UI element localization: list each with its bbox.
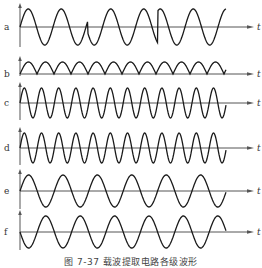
time-axis-arrow-icon: [247, 25, 254, 29]
panel-e: te: [4, 169, 261, 209]
figure-caption: 图 7-37 载波提取电路各级波形: [0, 255, 262, 268]
panel-d: td: [4, 127, 261, 165]
waveform-figure: tatbtctdtetf: [0, 0, 262, 256]
time-axis-label: t: [257, 98, 261, 108]
time-axis-arrow-icon: [247, 189, 254, 193]
y-axis-arrow-icon: [18, 3, 22, 8]
panel-label: c: [4, 98, 9, 108]
time-axis-label: t: [257, 186, 261, 196]
time-axis-label: t: [257, 143, 261, 153]
y-axis-arrow-icon: [18, 56, 22, 61]
time-axis-arrow-icon: [247, 146, 254, 150]
y-axis-arrow-icon: [18, 127, 22, 132]
time-axis-arrow-icon: [247, 230, 254, 234]
time-axis-arrow-icon: [247, 72, 254, 76]
panel-a: ta: [4, 3, 261, 47]
panel-f: tf: [4, 210, 261, 250]
panel-label: b: [4, 69, 10, 79]
panel-label: f: [4, 227, 8, 237]
waveform-b: [20, 62, 226, 74]
y-axis-arrow-icon: [18, 210, 22, 215]
panel-c: tc: [4, 82, 261, 120]
y-axis-arrow-icon: [18, 82, 22, 87]
y-axis-arrow-icon: [18, 169, 22, 174]
time-axis-label: t: [257, 227, 261, 237]
panel-b: tb: [4, 56, 261, 79]
panel-label: d: [4, 143, 10, 153]
panel-label: a: [4, 22, 10, 32]
time-axis-label: t: [257, 22, 261, 32]
time-axis-arrow-icon: [247, 101, 254, 105]
panel-label: e: [4, 186, 9, 196]
time-axis-label: t: [257, 69, 261, 79]
